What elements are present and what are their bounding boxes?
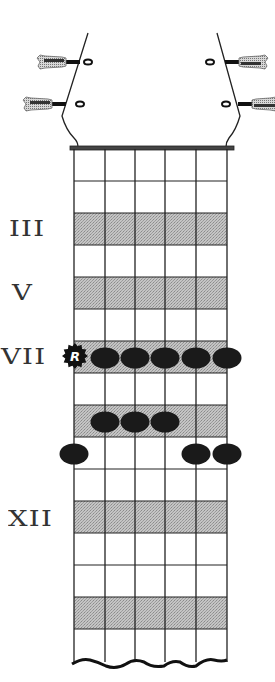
- tuner-peg-icon[interactable]: [23, 97, 66, 111]
- fret-label-v: V: [12, 280, 33, 305]
- fret-label-vii: VII: [1, 344, 46, 369]
- note-dot: [151, 348, 180, 369]
- fretboard-cut-edge: [72, 660, 227, 668]
- note-dot: [91, 348, 120, 369]
- note-dot: [151, 412, 180, 433]
- headstock: [23, 33, 275, 147]
- fret-label-iii: III: [9, 216, 45, 241]
- note-dot: [182, 444, 211, 465]
- note-dot: [213, 444, 242, 465]
- string-post-icon: [206, 59, 214, 64]
- tuner-peg-icon[interactable]: [225, 55, 268, 69]
- headstock-left-edge: [62, 33, 88, 147]
- note-dot: [213, 348, 242, 369]
- note-dot: [182, 348, 211, 369]
- note-dot: [91, 412, 120, 433]
- string-post-icon: [222, 101, 230, 106]
- fret-marker-band: [74, 597, 227, 629]
- note-dot: [60, 444, 89, 465]
- tuner-peg-icon[interactable]: [238, 97, 275, 111]
- fret-marker-band: [74, 213, 227, 245]
- fretboard-diagram: R: [0, 0, 275, 682]
- note-dot: [121, 412, 150, 433]
- headstock-right-edge: [217, 33, 240, 147]
- fret-lines: [74, 181, 227, 629]
- fret-marker-band: [74, 501, 227, 533]
- string-post-icon: [84, 59, 92, 64]
- fret-label-xii: XII: [8, 506, 53, 531]
- string-post-icon: [76, 101, 84, 106]
- fret-marker-band: [74, 277, 227, 309]
- nut: [70, 146, 234, 150]
- root-note-label: R: [70, 349, 80, 364]
- tuner-peg-icon[interactable]: [37, 55, 80, 69]
- note-dot: [121, 348, 150, 369]
